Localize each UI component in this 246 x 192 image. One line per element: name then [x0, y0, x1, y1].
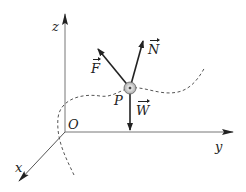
force-F-label: F [91, 62, 100, 75]
force-F-arrow [98, 49, 130, 88]
diagram-canvas [0, 0, 246, 192]
force-N-label: N [148, 43, 159, 56]
z-axis-label: z [52, 20, 59, 33]
x-axis [19, 132, 65, 181]
origin-label: O [68, 118, 79, 131]
y-axis-label: y [215, 140, 222, 153]
bead-center [129, 87, 132, 90]
force-W-label: W [136, 104, 149, 117]
vector-W-symbol: W [136, 104, 149, 117]
force-diagram: z y x O P F N W [0, 0, 246, 192]
force-N-arrow [130, 41, 143, 88]
x-axis-label: x [15, 161, 22, 174]
vector-F-symbol: F [91, 62, 100, 75]
point-P-label: P [114, 94, 123, 107]
vector-N-symbol: N [148, 43, 159, 56]
